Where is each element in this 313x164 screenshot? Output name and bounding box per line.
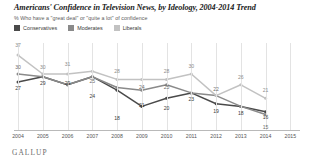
legend-item-label: Conservatives <box>23 25 57 31</box>
x-axis-tick-label: 2014 <box>260 133 272 139</box>
data-label: 18 <box>238 112 244 117</box>
x-axis-labels: 2004200520062007200820092010201120122013… <box>14 133 300 145</box>
x-axis-tick-label: 2009 <box>136 133 148 139</box>
legend-item-label: Moderates <box>77 25 102 31</box>
gridline <box>290 43 291 130</box>
data-label: 24 <box>89 95 95 100</box>
x-axis-tick-label: 2004 <box>12 133 24 139</box>
data-label: 28 <box>114 70 120 75</box>
data-label: 30 <box>40 65 46 70</box>
chart-container: Americans' Confidence in Television News… <box>0 0 313 164</box>
x-axis-tick-label: 2011 <box>186 133 197 139</box>
data-label: 19 <box>213 109 219 114</box>
x-axis-tick-label: 2010 <box>161 133 173 139</box>
x-axis-tick-label: 2013 <box>235 133 247 139</box>
gridline <box>191 43 192 130</box>
legend-item-conservatives[interactable]: Conservatives <box>14 25 57 31</box>
x-axis-tick-label: 2012 <box>210 133 222 139</box>
legend-swatch-icon <box>114 25 120 31</box>
data-label: 21 <box>139 104 145 109</box>
data-label: 18 <box>114 117 120 122</box>
data-label: 26 <box>238 75 244 80</box>
data-label: 25 <box>89 79 95 84</box>
gallup-logo: GALLUP <box>12 148 48 157</box>
data-label: 30 <box>188 64 194 69</box>
x-axis-tick-label: 2015 <box>285 133 297 139</box>
x-axis-line <box>14 130 300 131</box>
data-label: 23 <box>188 97 194 102</box>
x-axis-tick-label: 2008 <box>111 133 123 139</box>
x-axis-tick-label: 2006 <box>62 133 74 139</box>
gridline <box>43 43 44 130</box>
data-label: 29 <box>65 81 71 86</box>
chart-subtitle: % Who have a "great deal" or "quite a lo… <box>14 15 147 21</box>
gridline <box>68 43 69 130</box>
legend-swatch-icon <box>14 25 20 31</box>
plot-area: 3730273029312925241828242128252030232219… <box>14 43 300 130</box>
gridline <box>92 43 93 130</box>
data-label: 21 <box>263 89 269 94</box>
legend-item-label: Liberals <box>123 25 142 31</box>
gridline <box>241 43 242 130</box>
legend-swatch-icon <box>68 25 74 31</box>
chart-legend: ConservativesModeratesLiberals <box>14 25 142 31</box>
x-axis-tick-label: 2007 <box>87 133 99 139</box>
data-label: 30 <box>15 65 21 70</box>
data-label: 22 <box>213 87 219 92</box>
data-label: 37 <box>15 44 21 49</box>
legend-item-liberals[interactable]: Liberals <box>114 25 142 31</box>
data-label: 28 <box>164 70 170 75</box>
data-label: 25 <box>164 85 170 90</box>
data-label: 27 <box>15 87 21 92</box>
series-lines <box>14 43 300 130</box>
chart-title: Americans' Confidence in Television News… <box>14 3 256 12</box>
data-label: 20 <box>164 106 170 111</box>
data-label: 16 <box>263 115 269 120</box>
data-label: 29 <box>40 81 46 86</box>
data-label: 31 <box>65 63 71 68</box>
data-label: 24 <box>139 86 145 91</box>
legend-item-moderates[interactable]: Moderates <box>68 25 102 31</box>
x-axis-tick-label: 2005 <box>37 133 49 139</box>
